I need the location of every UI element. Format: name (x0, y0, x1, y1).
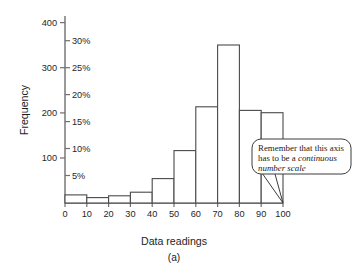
y-axis-frequency-labels: 400 300 200 100 (42, 18, 57, 163)
y2-tick-label: 15% (72, 117, 90, 127)
x-tick-label: 10 (82, 209, 92, 219)
x-tick-label: 20 (103, 209, 113, 219)
y-axis-percent-labels: 30% 25% 20% 15% 10% 5% (72, 36, 90, 181)
x-tick-label: 60 (191, 209, 201, 219)
y-tick-label: 100 (42, 153, 57, 163)
callout-line-1: Remember that this axis (258, 143, 345, 153)
bar-series (65, 45, 283, 203)
x-tick-label: 30 (125, 209, 135, 219)
y2-tick-label: 10% (72, 144, 90, 154)
x-tick-label: 80 (234, 209, 244, 219)
bar-0 (65, 195, 87, 203)
callout-line-3: number scale (258, 163, 306, 173)
bar-5 (174, 151, 196, 203)
x-axis-title: Data readings (141, 235, 207, 247)
x-tick-label: 50 (169, 209, 179, 219)
x-tick-label: 40 (147, 209, 157, 219)
bar-4 (152, 179, 174, 203)
y-axis-percent-ticks (65, 41, 70, 176)
x-tick-label: 70 (212, 209, 222, 219)
y2-tick-label: 25% (72, 63, 90, 73)
bar-7 (218, 45, 240, 203)
chart-canvas: 400 300 200 100 30% 25% 20% 15% 10% 5% 0… (0, 0, 357, 274)
callout-line-2-emphasis: continuous (298, 153, 337, 163)
histogram-figure: 400 300 200 100 30% 25% 20% 15% 10% 5% 0… (0, 0, 357, 274)
figure-caption: (a) (168, 252, 180, 263)
callout-line-2: has to be a continuous (258, 153, 337, 163)
y-tick-label: 300 (42, 63, 57, 73)
x-tick-label: 90 (256, 209, 266, 219)
bar-3 (130, 192, 152, 203)
y-axis-frequency-ticks (60, 23, 65, 158)
y-tick-label: 400 (42, 18, 57, 28)
y-tick-label: 200 (42, 108, 57, 118)
y2-tick-label: 20% (72, 90, 90, 100)
y-axis-title: Frequency (18, 84, 30, 135)
callout-line-2-plain: has to be a (258, 153, 298, 163)
bar-6 (196, 107, 218, 203)
bar-1 (87, 198, 109, 203)
x-tick-label: 100 (275, 209, 290, 219)
x-tick-label: 0 (62, 209, 67, 219)
bar-2 (109, 196, 131, 203)
x-axis-labels: 0 10 20 30 40 50 60 70 80 90 100 (62, 209, 290, 219)
y2-tick-label: 30% (72, 36, 90, 46)
y2-tick-label: 5% (72, 171, 85, 181)
